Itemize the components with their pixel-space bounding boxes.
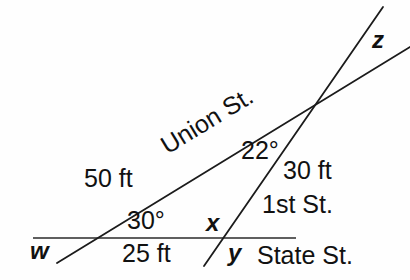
union-street-line (57, 47, 410, 263)
state-segment-length-label: 25 ft (122, 241, 171, 266)
angle-at-intersection-label: 22° (241, 138, 279, 163)
vertex-x-label: x (206, 211, 219, 235)
state-street-label: State St. (257, 243, 353, 268)
first-street-label: 1st St. (262, 192, 333, 217)
vertex-z-label: z (372, 28, 384, 52)
first-street-line (204, 7, 383, 266)
angle-at-w-label: 30° (127, 208, 165, 233)
first-segment-length-label: 30 ft (283, 158, 332, 183)
street-geometry-diagram: Union St. State St. 1st St. 50 ft 25 ft … (0, 0, 410, 280)
vertex-w-label: w (30, 239, 49, 263)
geometry-canvas (0, 0, 410, 280)
union-segment-length-label: 50 ft (84, 166, 133, 191)
vertex-y-label: y (228, 241, 241, 265)
